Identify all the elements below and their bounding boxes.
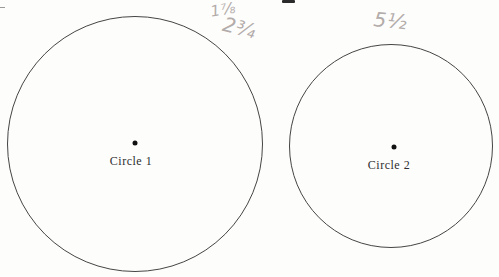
- handwritten-measurement-2: 2¾: [220, 12, 259, 44]
- circle-1-label: Circle 1: [110, 154, 152, 169]
- handwritten-measurement-3: 5½: [372, 7, 408, 34]
- worksheet-page: Circle 1 Circle 2 1⅞ 2¾ 5½: [0, 0, 499, 277]
- circle-1-center-dot: [133, 141, 138, 146]
- scan-edge-artifact: [0, 7, 5, 8]
- cropped-page-number-fragment: [282, 0, 295, 3]
- circle-2-center-dot: [392, 145, 397, 150]
- circle-2-label: Circle 2: [368, 158, 410, 173]
